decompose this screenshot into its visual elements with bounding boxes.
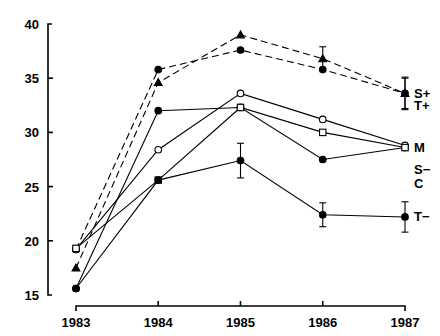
x-tick-labels: 19831984198519861987 [62,315,420,330]
y-tick-label: 40 [25,17,39,32]
line-chart: 152025303540 19831984198519861987 S+T+MS… [0,0,440,336]
data-point-S- [237,90,244,97]
x-tick-label: 1984 [144,315,174,330]
data-point-T+ [402,90,409,97]
x-tick-label: 1987 [391,315,420,330]
x-tick-label: 1986 [308,315,337,330]
series-label-T+: T+ [414,98,430,113]
series-labels-group: S+T+MS−CT− [414,86,431,225]
data-point-S+ [72,264,80,271]
data-point-S- [155,146,162,153]
data-point-T- [73,285,80,292]
data-point-S+ [237,31,245,38]
data-point-S+ [154,79,162,86]
data-point-T- [237,157,244,164]
data-point-T+ [237,47,244,54]
data-point-C [402,144,408,150]
data-point-C [73,245,79,251]
series-label-T-: T− [414,209,430,224]
y-axis [48,24,53,295]
y-tick-label: 25 [25,180,39,195]
data-point-T+ [319,66,326,73]
data-point-T- [319,211,326,218]
series-label-M: M [414,140,425,155]
data-markers-group [72,31,409,292]
data-point-T- [155,177,162,184]
data-point-M [319,156,326,163]
y-tick-label: 35 [25,71,39,86]
chart-plot-area: 152025303540 19831984198519861987 S+T+MS… [0,0,440,336]
series-label-S-: S− [414,162,431,177]
data-point-C [320,129,326,135]
data-point-T+ [155,66,162,73]
x-axis [76,301,405,311]
data-point-C [237,104,243,110]
y-tick-label: 15 [25,288,39,303]
x-tick-label: 1985 [226,315,255,330]
series-label-C: C [414,176,424,191]
series-line-T- [76,161,405,289]
y-tick-label: 30 [25,125,39,140]
error-bars-group [237,47,409,232]
x-tick-label: 1983 [62,315,91,330]
data-point-M [155,107,162,114]
y-tick-labels: 152025303540 [25,17,39,303]
series-line-M [76,107,405,288]
data-point-S- [319,116,326,123]
data-point-T- [402,214,409,221]
y-tick-label: 20 [25,234,39,249]
